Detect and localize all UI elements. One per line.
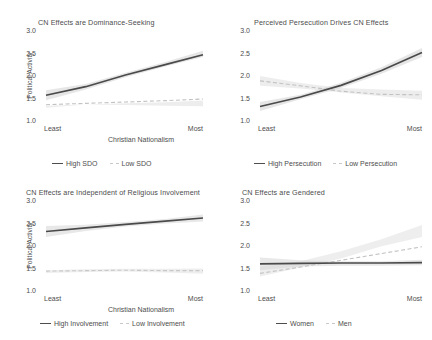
legend-item-low-involvement[interactable]: Low Involvement bbox=[120, 320, 185, 327]
plot-area: 1.0 1.5 2.0 2.5 3.0 Least Most bbox=[254, 200, 422, 290]
line-high-involvement bbox=[46, 218, 203, 232]
legend-swatch-solid-icon bbox=[52, 163, 63, 164]
panel-title: Perceived Persecution Drives CN Effects bbox=[254, 18, 388, 27]
legend-swatch-solid-icon bbox=[40, 323, 51, 324]
panel-title: CN Effects are Dominance-Seeking bbox=[38, 18, 155, 27]
y-tick-2: 1.5 bbox=[26, 264, 36, 271]
panel-religious-involvement: CN Effects are Independent of Religious … bbox=[0, 176, 216, 331]
y-tick-4: 2.5 bbox=[240, 49, 250, 56]
legend-swatch-dashed-icon bbox=[333, 163, 342, 164]
legend-label: Low Involvement bbox=[132, 320, 185, 327]
y-tick-3: 2.0 bbox=[240, 242, 250, 249]
legend-swatch-dashed-icon bbox=[120, 323, 129, 324]
y-tick-4: 2.5 bbox=[240, 219, 250, 226]
y-tick-2: 1.5 bbox=[240, 94, 250, 101]
plot-area: 1.0 1.5 2.0 2.5 3.0 Least Most bbox=[254, 30, 422, 120]
figure-panel-grid: CN Effects are Dominance-Seeking Politic… bbox=[0, 0, 432, 340]
y-tick-2: 1.5 bbox=[26, 94, 36, 101]
plot-area: 1.0 1.5 2.0 2.5 3.0 Least Most bbox=[40, 30, 203, 120]
legend-item-high-sdo[interactable]: High SDO bbox=[52, 160, 98, 167]
y-tick-3: 2.0 bbox=[26, 72, 36, 79]
panel-title: CN Effects are Independent of Religious … bbox=[26, 188, 200, 197]
y-tick-5: 3.0 bbox=[240, 197, 250, 204]
panel-dominance-seeking: CN Effects are Dominance-Seeking Politic… bbox=[0, 6, 216, 161]
series-curves bbox=[254, 30, 422, 120]
x-tick-least: Least bbox=[258, 295, 275, 302]
legend-panel-3: High Involvement Low Involvement bbox=[40, 320, 185, 327]
panel-perceived-persecution: Perceived Persecution Drives CN Effects … bbox=[216, 6, 432, 161]
x-tick-least: Least bbox=[44, 125, 61, 132]
legend-item-high-persecution[interactable]: High Persecution bbox=[254, 160, 321, 167]
y-tick-3: 2.0 bbox=[240, 72, 250, 79]
legend-item-low-sdo[interactable]: Low SDO bbox=[110, 160, 152, 167]
series-curves bbox=[40, 30, 203, 120]
panel-title: CN Effects are Gendered bbox=[242, 188, 325, 197]
y-tick-1: 1.0 bbox=[240, 287, 250, 294]
legend-label: High SDO bbox=[66, 160, 98, 167]
legend-item-low-persecution[interactable]: Low Persecution bbox=[333, 160, 397, 167]
legend-label: Low Persecution bbox=[345, 160, 397, 167]
legend-label: Low SDO bbox=[122, 160, 152, 167]
legend-swatch-dashed-icon bbox=[110, 163, 119, 164]
panel-gendered: CN Effects are Gendered 1.0 1.5 2.0 2.5 … bbox=[216, 176, 432, 331]
legend-label: High Persecution bbox=[268, 160, 321, 167]
x-tick-most: Most bbox=[188, 125, 203, 132]
x-tick-most: Most bbox=[188, 295, 203, 302]
x-tick-least: Least bbox=[44, 295, 61, 302]
series-curves bbox=[40, 200, 203, 290]
x-tick-most: Most bbox=[407, 295, 422, 302]
y-tick-3: 2.0 bbox=[26, 242, 36, 249]
legend-swatch-dashed-icon bbox=[326, 323, 335, 324]
legend-label: Men bbox=[338, 320, 352, 327]
legend-label: High Involvement bbox=[54, 320, 108, 327]
legend-panel-2: High Persecution Low Persecution bbox=[254, 160, 397, 167]
legend-label: Women bbox=[290, 320, 314, 327]
legend-swatch-solid-icon bbox=[254, 163, 265, 164]
legend-item-women[interactable]: Women bbox=[276, 320, 314, 327]
y-tick-1: 1.0 bbox=[240, 117, 250, 124]
plot-area: 1.0 1.5 2.0 2.5 3.0 Least Most bbox=[40, 200, 203, 290]
y-tick-5: 3.0 bbox=[26, 197, 36, 204]
y-tick-5: 3.0 bbox=[26, 27, 36, 34]
y-tick-4: 2.5 bbox=[26, 49, 36, 56]
series-curves bbox=[254, 200, 422, 290]
legend-swatch-solid-icon bbox=[276, 323, 287, 324]
y-tick-5: 3.0 bbox=[240, 27, 250, 34]
legend-panel-1: High SDO Low SDO bbox=[52, 160, 151, 167]
y-tick-4: 2.5 bbox=[26, 219, 36, 226]
legend-item-high-involvement[interactable]: High Involvement bbox=[40, 320, 108, 327]
x-tick-least: Least bbox=[258, 125, 275, 132]
ci-ribbon-high-involvement bbox=[46, 214, 203, 237]
legend-item-men[interactable]: Men bbox=[326, 320, 352, 327]
y-tick-1: 1.0 bbox=[26, 117, 36, 124]
y-tick-2: 1.5 bbox=[240, 264, 250, 271]
legend-panel-4: Women Men bbox=[276, 320, 352, 327]
y-tick-1: 1.0 bbox=[26, 287, 36, 294]
x-tick-most: Most bbox=[407, 125, 422, 132]
